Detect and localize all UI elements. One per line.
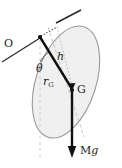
- label-angle-theta: θ: [36, 63, 43, 74]
- pivot-point-marker: [38, 35, 42, 39]
- rigid-body-ellipse: [20, 18, 113, 147]
- label-mg-gravity: g: [91, 144, 98, 157]
- label-weight-mg: Mg: [80, 145, 98, 156]
- label-rg-subscript: G: [48, 81, 53, 89]
- physics-diagram-figure: O h θ rG G Mg: [0, 0, 122, 168]
- label-mg-mass: M: [80, 144, 91, 157]
- label-centre-of-mass-g: G: [77, 84, 86, 95]
- diagram-canvas: [0, 0, 122, 168]
- label-distance-h: h: [57, 51, 64, 62]
- perpendicular-guide-dotted-line: [41, 27, 57, 36]
- label-distance-rg: rG: [43, 76, 54, 88]
- label-pivot-o: O: [4, 38, 13, 49]
